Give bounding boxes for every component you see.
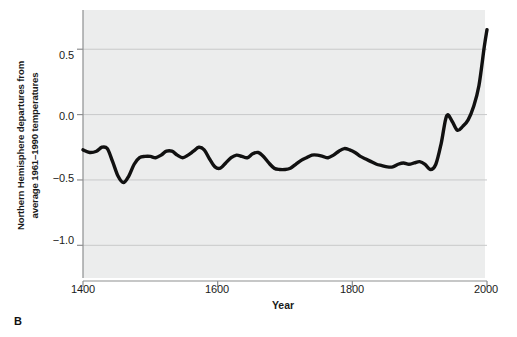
x-tick-label: 2000 <box>474 283 498 295</box>
x-tick-label: 1400 <box>71 283 95 295</box>
x-tick-label: 1600 <box>205 283 229 295</box>
y-axis-ticks <box>77 49 83 245</box>
plot-background <box>83 10 485 278</box>
x-axis-title: Year <box>78 299 488 311</box>
panel-label: B <box>14 315 22 327</box>
figure-panel-b: Northern Hemisphere departures from aver… <box>0 0 517 337</box>
x-tick-label: 1800 <box>340 283 364 295</box>
